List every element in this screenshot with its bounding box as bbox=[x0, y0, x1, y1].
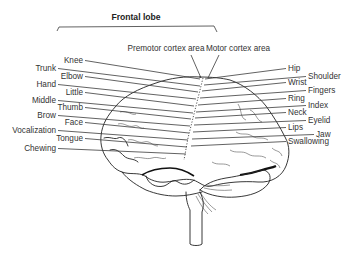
label-hip: Hip bbox=[288, 64, 301, 73]
motor-cortex-label: Motor cortex area bbox=[206, 44, 271, 53]
label-wrist: Wrist bbox=[288, 78, 307, 87]
label-middle: Middle bbox=[32, 96, 57, 105]
label-index: Index bbox=[308, 101, 328, 110]
premotor-pointer-line bbox=[191, 55, 201, 78]
label-fingers: Fingers bbox=[308, 86, 335, 95]
premotor-cortex-label: Premotor cortex area bbox=[128, 44, 205, 53]
right-body-part-labels: Hip Shoulder Wrist Fingers Ring Index Ne… bbox=[288, 64, 341, 146]
label-chewing: Chewing bbox=[24, 144, 56, 153]
label-eyelid: Eyelid bbox=[308, 116, 331, 125]
label-elbow: Elbow bbox=[61, 72, 83, 81]
label-thumb: Thumb bbox=[58, 103, 84, 112]
label-tongue: Tongue bbox=[56, 134, 83, 143]
label-face: Face bbox=[65, 118, 84, 127]
label-lips: Lips bbox=[288, 123, 303, 132]
label-shoulder: Shoulder bbox=[308, 72, 341, 81]
label-knee: Knee bbox=[64, 56, 84, 65]
label-neck: Neck bbox=[288, 108, 308, 117]
label-brow: Brow bbox=[37, 111, 56, 120]
label-little: Little bbox=[66, 88, 84, 97]
motor-pointer-line bbox=[208, 55, 219, 78]
label-trunk: Trunk bbox=[35, 64, 57, 73]
frontal-lobe-bracket bbox=[57, 26, 217, 32]
brain-motor-cortex-diagram: Frontal lobe Premotor cortex area Motor … bbox=[0, 0, 355, 255]
brain-illustration bbox=[101, 77, 289, 246]
label-ring: Ring bbox=[288, 94, 305, 103]
label-vocalization: Vocalization bbox=[12, 126, 56, 135]
label-hand: Hand bbox=[36, 80, 56, 89]
frontal-lobe-title: Frontal lobe bbox=[111, 12, 160, 22]
label-swallowing: Swallowing bbox=[288, 137, 329, 146]
